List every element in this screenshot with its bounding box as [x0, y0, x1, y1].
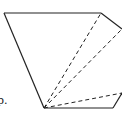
dashed-pd	[44, 93, 122, 108]
partial-label: p.	[0, 95, 8, 106]
edge-bc	[101, 13, 122, 29]
geometry-diagram	[0, 0, 122, 115]
edge-ed	[113, 93, 122, 108]
dashed-pb	[44, 13, 101, 108]
edge-ap	[4, 13, 44, 108]
dashed-pc	[44, 29, 122, 108]
